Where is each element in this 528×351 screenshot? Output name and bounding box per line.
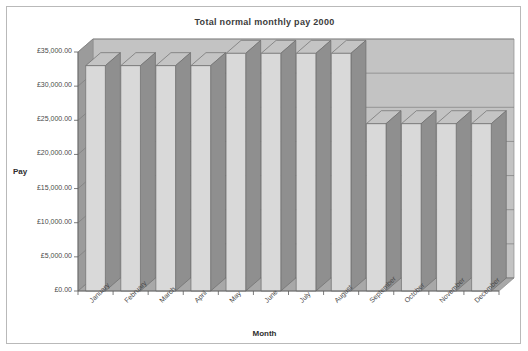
bar [156,53,191,291]
bar-side-face [211,53,226,291]
bar-front-face [296,53,316,291]
bar [86,53,121,291]
bar-front-face [191,66,211,291]
y-tick-label: £10,000.00 [10,218,72,225]
bar-side-face [105,53,120,291]
bar [261,40,296,291]
bar [226,40,261,291]
bar-front-face [261,53,281,291]
bar-side-face [316,40,331,291]
bar-side-face [491,111,506,291]
y-tick-label: £15,000.00 [10,184,72,191]
bar [472,111,507,291]
chart-container: Total normal monthly pay 2000 Pay Month … [6,6,521,344]
bar-front-face [156,66,176,291]
bar [437,111,472,291]
bar [296,40,331,291]
bar-front-face [226,53,246,291]
bar-front-face [437,124,457,291]
bar-side-face [281,40,296,291]
y-tick-label: £25,000.00 [10,115,72,122]
y-tick-label: £30,000.00 [10,81,72,88]
bar [366,111,401,291]
bar-side-face [351,40,366,291]
y-tick-label: £35,000.00 [10,47,72,54]
y-tick-label: £20,000.00 [10,149,72,156]
bar-side-face [176,53,191,291]
bar-side-face [140,53,155,291]
bar-side-face [456,111,471,291]
bar-front-face [121,66,141,291]
bar-front-face [86,66,106,291]
bar-front-face [331,53,351,291]
bar-front-face [472,124,492,291]
y-tick-label: £0.00 [10,286,72,293]
bar-side-face [246,40,261,291]
bar-front-face [366,124,386,291]
plot-area: £0.00£5,000.00£10,000.00£15,000.00£20,00… [7,7,522,345]
bar [191,53,226,291]
bar [401,111,436,291]
bar-side-face [386,111,401,291]
y-tick-label: £5,000.00 [10,252,72,259]
bar [121,53,156,291]
bar-side-face [421,111,436,291]
bar-front-face [401,124,421,291]
bar [331,40,366,291]
